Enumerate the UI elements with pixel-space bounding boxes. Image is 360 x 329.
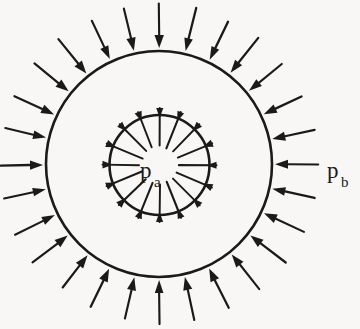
pressure-vessel-figure: p a p b	[0, 0, 360, 329]
inner-pressure-symbol: p	[140, 158, 152, 183]
arrow-shaft	[1, 165, 30, 166]
outer-pressure-subscript: b	[341, 174, 349, 190]
figure-canvas: p a p b	[0, 0, 360, 329]
inner-pressure-subscript: a	[154, 174, 161, 190]
outer-pressure-symbol: p	[327, 158, 339, 183]
